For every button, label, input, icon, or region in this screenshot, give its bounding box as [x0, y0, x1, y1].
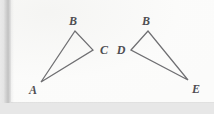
vertex-label-d: D [117, 44, 126, 56]
vertex-label-e: E [192, 83, 200, 95]
vertex-label-c: C [100, 44, 108, 56]
triangle-dbe-outline [131, 31, 188, 80]
vertex-label-b-left: B [69, 15, 77, 27]
triangle-abc-outline [41, 31, 93, 82]
geometry-figure-screenshot: A B C D B E [0, 0, 214, 114]
vertex-label-a: A [29, 84, 37, 96]
vertex-label-b-right: B [142, 15, 150, 27]
